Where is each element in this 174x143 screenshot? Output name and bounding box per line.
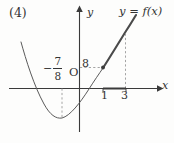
fraction-seven-eighths: 7 8 [53, 56, 62, 81]
fraction-denominator: 8 [54, 70, 61, 82]
x-tick-label-3: 3 [121, 90, 128, 101]
y-value-label-8: 8 [82, 58, 89, 69]
fraction-numerator: 7 [54, 56, 61, 68]
origin-label: O [69, 67, 78, 79]
curve-thick-branch [103, 15, 136, 68]
graph-canvas [0, 0, 174, 143]
panel-number-label: (4) [9, 7, 27, 20]
function-label: y = f(x) [119, 6, 162, 18]
x-axis-label: x [162, 80, 168, 91]
fraction-minus-sign: − [43, 63, 52, 75]
y-axis-label: y [87, 7, 93, 18]
vertex-x-fraction-label: − 7 8 [43, 56, 62, 81]
figure-panel: (4) y = f(x) y x O 8 1 3 − 7 8 [0, 0, 174, 143]
marked-point [101, 66, 105, 70]
x-tick-label-1: 1 [101, 90, 108, 101]
